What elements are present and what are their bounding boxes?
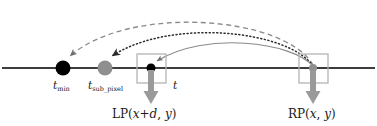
solid-curve-to-t [157,43,313,66]
label-lp: LP(x+d, y) [112,108,176,120]
label-rp: RP(x, y) [288,108,336,120]
label-rp-var1: x [310,107,317,121]
lp-down-arrow [144,70,159,104]
dashed-curve-to-tmin [70,22,313,65]
label-rp-var2: y [324,107,331,121]
label-lp-var1: x [133,107,140,121]
label-t-min: tmin [53,80,70,91]
label-lp-comma: , [157,107,165,121]
label-lp-var3: y [165,107,172,121]
label-rp-prefix: RP( [288,107,310,121]
t-min-point [56,61,71,76]
label-lp-suffix: ) [172,107,177,121]
label-t-base: t [173,79,177,91]
rp-down-arrow [306,70,321,104]
label-rp-suffix: ) [331,107,336,121]
t-sub-pixel-point [98,61,113,76]
label-t: t [173,80,177,91]
subpixel-disparity-diagram: tmin tsub_pixel t LP(x+d, y) RP(x, y) [0,0,377,126]
label-lp-prefix: LP( [112,107,133,121]
label-lp-plus: + [140,107,150,121]
label-t-sub-pixel: tsub_pixel [88,80,123,91]
label-t-sub-pixel-subscript: sub_pixel [92,85,123,93]
label-t-min-subscript: min [57,85,69,93]
